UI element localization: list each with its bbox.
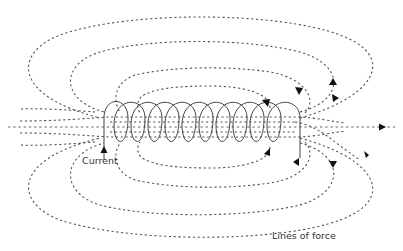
- solenoid-diagram: Current Lines of force: [0, 0, 403, 251]
- arrow-bottom-far: [364, 151, 369, 158]
- solenoid-coil: [104, 102, 300, 161]
- current-label: Current: [82, 155, 118, 166]
- arrow-bottom-outer: [329, 161, 337, 168]
- arrow-axis: [379, 124, 386, 131]
- arrow-bottom-inner: [264, 148, 270, 156]
- arrow-top-mid: [295, 87, 303, 95]
- arrow-top-up: [329, 78, 337, 85]
- field-lines-bottom: [29, 138, 373, 237]
- axial-field-lines: [8, 109, 395, 160]
- field-lines-top: [29, 17, 373, 118]
- lines-of-force-label: Lines of force: [272, 230, 336, 241]
- arrow-current: [101, 146, 108, 153]
- arrow-bottom-mid: [293, 158, 299, 166]
- arrow-top-outer: [332, 94, 339, 102]
